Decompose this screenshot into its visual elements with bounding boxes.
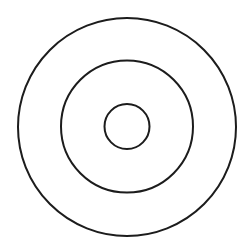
middle-ring xyxy=(61,61,193,193)
inner-ring xyxy=(105,104,150,149)
outer-ring xyxy=(18,18,236,236)
circles-svg xyxy=(0,0,249,250)
concentric-circles-diagram xyxy=(0,0,249,250)
